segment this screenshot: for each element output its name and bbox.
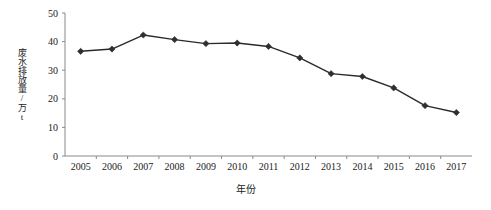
x-tick-label: 2014 [352, 161, 372, 172]
x-tick-label: 2005 [71, 161, 91, 172]
data-point-marker [78, 48, 84, 54]
series-markers [78, 32, 460, 116]
data-point-marker [203, 41, 209, 47]
line-chart-plot: 01020304050 2005200620072008200920102011… [0, 0, 491, 210]
chart-container: 废水排放量/万t 年份 01020304050 2005200620072008… [0, 0, 491, 210]
data-point-marker [234, 40, 240, 46]
x-tick-label: 2008 [165, 161, 185, 172]
x-axis-ticks: 2005200620072008200920102011201220132014… [71, 156, 467, 172]
data-point-marker [171, 36, 177, 42]
y-tick-label: 50 [48, 8, 58, 19]
x-tick-label: 2017 [446, 161, 466, 172]
x-tick-label: 2011 [259, 161, 279, 172]
data-point-marker [140, 32, 146, 38]
axis-lines [65, 13, 472, 156]
data-point-marker [453, 109, 459, 115]
y-tick-label: 10 [48, 122, 58, 133]
x-tick-label: 2012 [290, 161, 310, 172]
y-tick-label: 0 [53, 151, 58, 162]
y-tick-label: 40 [48, 36, 58, 47]
data-point-marker [422, 103, 428, 109]
y-tick-label: 30 [48, 65, 58, 76]
x-tick-label: 2009 [196, 161, 216, 172]
data-point-marker [359, 73, 365, 79]
data-point-marker [109, 46, 115, 52]
data-point-marker [328, 71, 334, 77]
x-tick-label: 2013 [321, 161, 341, 172]
x-tick-label: 2007 [133, 161, 153, 172]
data-point-marker [297, 55, 303, 61]
data-point-marker [265, 43, 271, 49]
x-tick-label: 2010 [227, 161, 247, 172]
y-axis-ticks: 01020304050 [48, 8, 65, 162]
x-tick-label: 2015 [384, 161, 404, 172]
x-tick-label: 2006 [102, 161, 122, 172]
y-tick-label: 20 [48, 93, 58, 104]
data-point-marker [391, 85, 397, 91]
x-tick-label: 2016 [415, 161, 435, 172]
